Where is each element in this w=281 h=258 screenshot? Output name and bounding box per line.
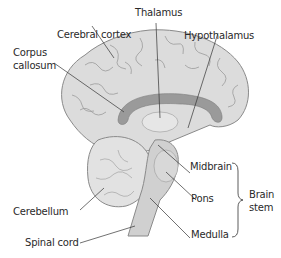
label-brain-stem-line2: stem <box>249 202 273 213</box>
pons <box>154 150 178 182</box>
cerebrum <box>62 30 249 154</box>
brain-stem-brace <box>232 163 243 237</box>
label-corpus-line1: Corpus <box>13 47 47 58</box>
label-midbrain: Midbrain <box>190 161 232 172</box>
label-brain-stem-line1: Brain <box>249 189 274 200</box>
label-spinal-cord: Spinal cord <box>25 237 79 248</box>
label-thalamus: Thalamus <box>135 7 182 18</box>
label-cerebral-cortex: Cerebral cortex <box>57 29 131 40</box>
label-medulla: Medulla <box>191 229 229 240</box>
label-corpus-line2: callosum <box>13 60 56 71</box>
label-cerebellum: Cerebellum <box>13 206 68 217</box>
label-pons: Pons <box>191 193 214 204</box>
label-hypothalamus: Hypothalamus <box>184 30 254 41</box>
